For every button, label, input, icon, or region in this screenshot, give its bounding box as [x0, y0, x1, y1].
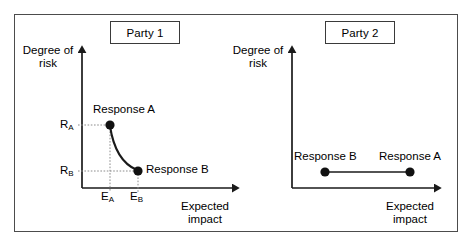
- party2-x-axis-label-line1: Expected: [377, 200, 443, 213]
- party2-axes: [292, 51, 436, 188]
- party1-guide-lines: [78, 125, 138, 192]
- party2-label-response-b: Response B: [294, 150, 357, 162]
- party1-y-axis-label-line1: Degree of: [16, 44, 80, 57]
- party1-ytick-ra: RA: [60, 118, 74, 132]
- party2-y-axis-label-line2: risk: [226, 57, 290, 70]
- party1-xtick-eb-base: E: [130, 190, 138, 202]
- figure-canvas: Party 1 Party 2 Degree of risk Expected …: [0, 0, 466, 245]
- party1-ytick-ra-sub: A: [68, 123, 73, 132]
- party1-x-axis-label-line1: Expected: [172, 200, 238, 213]
- party1-point-response-b: [133, 166, 142, 175]
- party1-label-response-a: Response A: [93, 103, 155, 115]
- party2-label-response-a: Response A: [379, 150, 441, 162]
- party1-title-text: Party 1: [126, 27, 163, 39]
- party1-x-axis-label: Expected impact: [172, 200, 238, 226]
- party1-ytick-rb-sub: B: [68, 169, 73, 178]
- party1-x-axis-label-line2: impact: [172, 213, 238, 226]
- party1-label-response-b: Response B: [146, 163, 209, 175]
- party1-y-axis-label: Degree of risk: [16, 44, 80, 70]
- party2-title-box: Party 2: [325, 21, 395, 44]
- party1-title-box: Party 1: [110, 21, 180, 44]
- party2-x-axis-label: Expected impact: [377, 200, 443, 226]
- party2-y-axis-label: Degree of risk: [226, 44, 290, 70]
- party2-point-response-a: [405, 167, 414, 176]
- party1-xtick-ea-base: E: [101, 190, 109, 202]
- party1-xtick-ea-sub: A: [109, 195, 114, 204]
- party2-title-text: Party 2: [341, 27, 378, 39]
- party1-ytick-rb: RB: [60, 164, 74, 178]
- party1-xtick-ea: EA: [101, 190, 114, 204]
- party2-x-axis-label-line2: impact: [377, 213, 443, 226]
- party2-y-axis-label-line1: Degree of: [226, 44, 290, 57]
- party1-xtick-eb-sub: B: [138, 195, 143, 204]
- party1-y-axis-label-line2: risk: [16, 57, 80, 70]
- party1-xtick-eb: EB: [130, 190, 143, 204]
- party2-point-response-b: [320, 167, 329, 176]
- party1-point-response-a: [105, 120, 114, 129]
- party1-tradeoff-curve: [110, 126, 137, 170]
